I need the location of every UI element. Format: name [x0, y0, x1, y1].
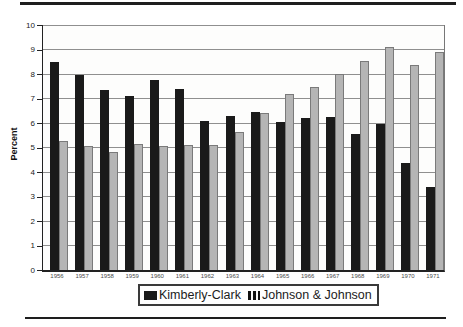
bar-johnson-johnson-1969: [385, 47, 394, 270]
x-tick-label-1963: 1963: [217, 273, 242, 279]
bar-johnson-johnson-1970: [410, 65, 419, 270]
bar-johnson-johnson-1971: [435, 52, 444, 270]
bar-group-1961: [168, 25, 193, 270]
bottom-rule: [25, 317, 446, 319]
y-tick-label-7: 7: [0, 94, 35, 103]
legend-item-kimberly-clark: Kimberly-Clark: [144, 288, 241, 302]
y-tick-4: [37, 172, 42, 173]
y-tick-7: [37, 99, 42, 100]
bar-kimberly-clark-1963: [226, 116, 235, 270]
bar-johnson-johnson-1966: [310, 87, 319, 270]
bar-johnson-johnson-1962: [209, 145, 218, 270]
bar-group-1957: [68, 25, 93, 270]
y-tick-label-2: 2: [0, 217, 35, 226]
bar-group-1966: [294, 25, 319, 270]
y-tick-0: [37, 270, 42, 271]
bar-group-1956: [43, 25, 68, 270]
y-tick-8: [37, 74, 42, 75]
bar-chart-figure: Percent 19561957195819591960196119621963…: [0, 0, 463, 327]
y-tick-6: [37, 123, 42, 124]
x-tick-label-1957: 1957: [67, 273, 92, 279]
bar-kimberly-clark-1964: [251, 112, 260, 270]
johnson-johnson-swatch-icon: [248, 291, 260, 300]
x-tick-label-1961: 1961: [167, 273, 192, 279]
y-tick-2: [37, 221, 42, 222]
legend-item-johnson-johnson: Johnson & Johnson: [241, 288, 372, 302]
bar-johnson-johnson-1961: [184, 145, 193, 270]
bar-kimberly-clark-1967: [326, 117, 335, 270]
bar-group-1960: [143, 25, 168, 270]
bar-kimberly-clark-1956: [50, 62, 59, 270]
x-tick-label-1966: 1966: [293, 273, 318, 279]
legend-label-johnson-johnson: Johnson & Johnson: [262, 288, 372, 302]
bar-johnson-johnson-1959: [134, 144, 143, 270]
bar-kimberly-clark-1960: [150, 80, 159, 270]
y-tick-label-9: 9: [0, 45, 35, 54]
x-tick-label-1967: 1967: [318, 273, 343, 279]
y-tick-label-5: 5: [0, 143, 35, 152]
x-tick-label-1968: 1968: [343, 273, 368, 279]
y-tick-9: [37, 50, 42, 51]
bar-johnson-johnson-1965: [285, 94, 294, 270]
x-axis-labels: 1956195719581959196019611962196319641965…: [42, 273, 443, 279]
y-tick-5: [37, 148, 42, 149]
bar-kimberly-clark-1965: [276, 122, 285, 270]
x-tick-label-1964: 1964: [243, 273, 268, 279]
x-tick-label-1962: 1962: [192, 273, 217, 279]
y-tick-10: [37, 25, 42, 26]
bar-johnson-johnson-1964: [260, 113, 269, 270]
bar-kimberly-clark-1961: [175, 89, 184, 270]
x-tick-label-1965: 1965: [268, 273, 293, 279]
y-tick-label-1: 1: [0, 241, 35, 250]
bar-kimberly-clark-1971: [426, 187, 435, 270]
bar-johnson-johnson-1967: [335, 74, 344, 270]
bar-group-1962: [193, 25, 218, 270]
bar-kimberly-clark-1957: [75, 75, 84, 270]
plot-area: [42, 25, 445, 272]
kimberly-clark-swatch-icon: [144, 291, 157, 300]
x-tick-label-1971: 1971: [418, 273, 443, 279]
bar-group-1963: [218, 25, 243, 270]
y-tick-label-8: 8: [0, 70, 35, 79]
bar-kimberly-clark-1966: [301, 118, 310, 270]
legend: Kimberly-Clark Johnson & Johnson: [138, 284, 379, 306]
bar-johnson-johnson-1963: [235, 132, 244, 270]
bar-kimberly-clark-1970: [401, 163, 410, 270]
bar-groups: [43, 25, 444, 270]
x-tick-label-1958: 1958: [92, 273, 117, 279]
bar-group-1964: [244, 25, 269, 270]
bar-johnson-johnson-1958: [109, 152, 118, 270]
x-tick-label-1960: 1960: [142, 273, 167, 279]
y-tick-label-0: 0: [0, 266, 35, 275]
x-tick-label-1970: 1970: [393, 273, 418, 279]
bar-kimberly-clark-1958: [100, 90, 109, 270]
bar-group-1970: [394, 25, 419, 270]
legend-label-kimberly-clark: Kimberly-Clark: [159, 288, 241, 302]
bar-kimberly-clark-1962: [200, 121, 209, 270]
bar-kimberly-clark-1959: [125, 96, 134, 270]
x-tick-label-1959: 1959: [117, 273, 142, 279]
x-tick-label-1956: 1956: [42, 273, 67, 279]
bar-kimberly-clark-1969: [376, 124, 385, 270]
bar-group-1967: [319, 25, 344, 270]
y-tick-label-4: 4: [0, 168, 35, 177]
x-tick-label-1969: 1969: [368, 273, 393, 279]
y-tick-label-10: 10: [0, 21, 35, 30]
bar-group-1968: [344, 25, 369, 270]
y-tick-1: [37, 246, 42, 247]
bar-johnson-johnson-1968: [360, 61, 369, 270]
bar-group-1958: [93, 25, 118, 270]
bar-group-1959: [118, 25, 143, 270]
bar-group-1965: [269, 25, 294, 270]
bar-kimberly-clark-1968: [351, 134, 360, 270]
y-tick-label-6: 6: [0, 119, 35, 128]
bar-group-1969: [369, 25, 394, 270]
bar-johnson-johnson-1960: [159, 146, 168, 270]
y-tick-label-3: 3: [0, 192, 35, 201]
bar-johnson-johnson-1957: [84, 146, 93, 270]
bar-group-1971: [419, 25, 444, 270]
bar-johnson-johnson-1956: [59, 141, 68, 270]
y-tick-3: [37, 197, 42, 198]
